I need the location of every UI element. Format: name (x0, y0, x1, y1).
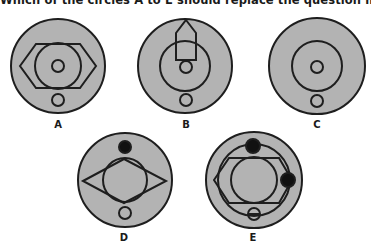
answer-options-diagram: A B C D (0, 0, 371, 245)
outer-circle (138, 19, 232, 113)
option-label-b: B (182, 119, 190, 130)
option-label-c: C (313, 119, 320, 130)
top-black-dot (246, 139, 260, 153)
option-label-d: D (120, 232, 128, 243)
option-b[interactable]: B (138, 19, 232, 130)
outer-circle (11, 19, 105, 113)
option-c[interactable]: C (269, 18, 365, 130)
option-label-e: E (250, 232, 257, 243)
option-a[interactable]: A (11, 19, 105, 130)
option-label-a: A (54, 119, 62, 130)
outer-circle (269, 18, 365, 114)
option-d[interactable]: D (78, 133, 172, 243)
right-black-dot (281, 173, 295, 187)
option-e[interactable]: E (206, 132, 302, 243)
top-black-dot (119, 141, 131, 153)
